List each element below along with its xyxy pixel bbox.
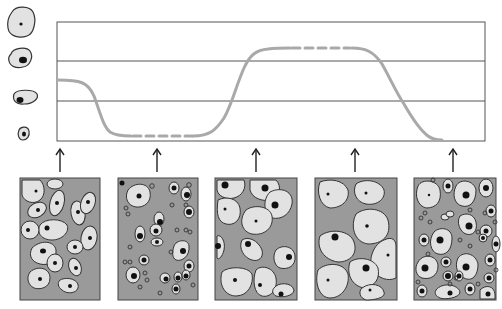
- legend-cell-tiny-icon: [18, 127, 29, 140]
- legend-cell-large-icon: [8, 7, 35, 37]
- panel-5: [414, 178, 500, 300]
- legend-cell-medium-icon: [9, 48, 32, 67]
- legend-cells: [8, 7, 38, 140]
- graph: [57, 22, 485, 141]
- graph-frame: [57, 22, 485, 141]
- panel-3: [215, 178, 297, 300]
- curve: [58, 48, 442, 140]
- arrow-up-icon: [449, 149, 457, 172]
- curve-fall-1: [58, 80, 131, 136]
- arrow-up-icon: [153, 149, 161, 172]
- arrow-up-icon: [351, 149, 359, 172]
- panel-4: [315, 178, 397, 300]
- curve-fall-2: [352, 48, 442, 140]
- diagram-svg: [0, 0, 502, 309]
- legend-cell-small-icon: [13, 90, 37, 104]
- arrow-up-icon: [252, 149, 260, 172]
- arrows: [56, 149, 457, 172]
- panel-2: [118, 178, 198, 300]
- panel-1: [20, 178, 100, 300]
- arrow-up-icon: [56, 149, 64, 172]
- diagram-stage: [0, 0, 502, 309]
